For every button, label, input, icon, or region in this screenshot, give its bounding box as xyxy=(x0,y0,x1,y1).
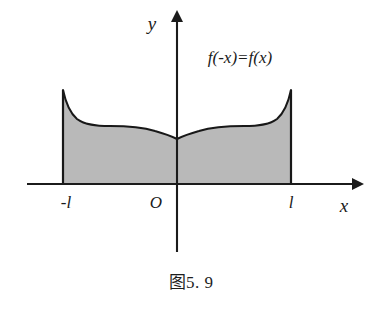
formula-annotation: f(-x)=f(x) xyxy=(208,48,273,67)
function-plot: y x -l O l f(-x)=f(x) xyxy=(0,0,382,270)
y-axis-arrowhead xyxy=(171,10,183,22)
x-tick-label-positive-l: l xyxy=(289,193,294,212)
origin-label: O xyxy=(150,193,162,212)
caption-cjk-text: 图 xyxy=(169,272,187,292)
x-axis-label: x xyxy=(339,195,349,216)
figure-container: y x -l O l f(-x)=f(x) 图5. 9 xyxy=(0,0,382,319)
caption-number: 5. 9 xyxy=(186,273,214,292)
y-axis-label: y xyxy=(146,13,157,34)
x-tick-label-negative-l: -l xyxy=(61,193,72,212)
x-axis-arrowhead xyxy=(352,178,364,190)
figure-caption: 图5. 9 xyxy=(0,268,382,293)
